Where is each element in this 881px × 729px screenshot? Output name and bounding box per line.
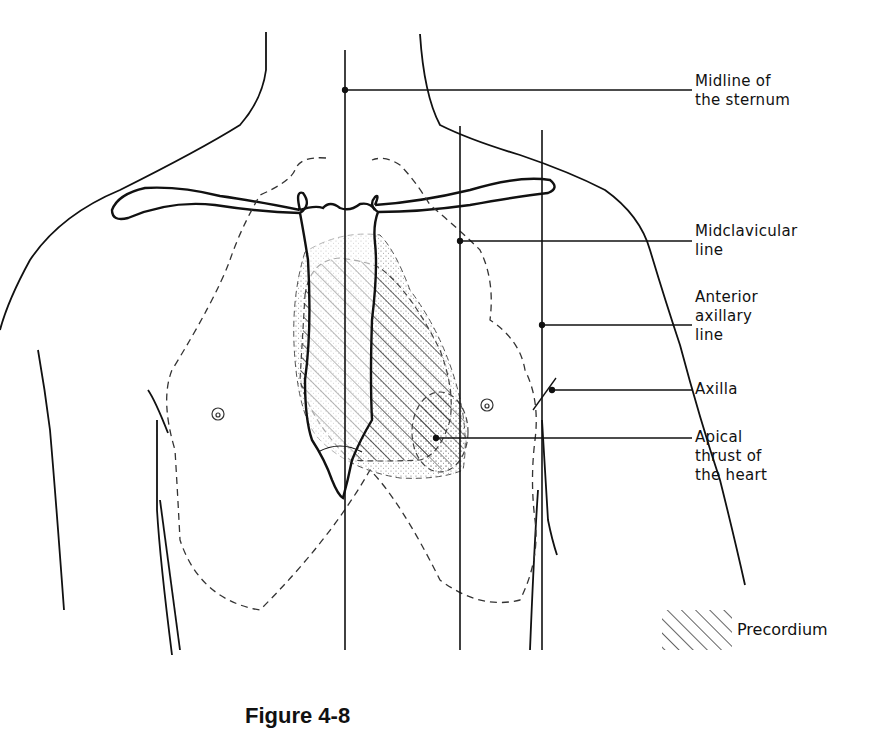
label-apical-thrust: Apical thrust of the heart — [695, 428, 767, 485]
label-line: Apical — [695, 428, 767, 447]
label-line: thrust of — [695, 447, 767, 466]
label-line: Anterior — [695, 288, 758, 307]
label-line: Midline of — [695, 72, 790, 91]
label-line: line — [695, 326, 758, 345]
label-line: the sternum — [695, 91, 790, 110]
label-line: Axilla — [695, 380, 738, 399]
label-line: Midclavicular — [695, 222, 797, 241]
label-line: axillary — [695, 307, 758, 326]
label-axilla: Axilla — [695, 380, 738, 399]
label-midline-of-sternum: Midline of the sternum — [695, 72, 790, 110]
label-midclavicular-line: Midclavicular line — [695, 222, 797, 260]
figure-caption: Figure 4-8 — [245, 703, 350, 729]
legend-label: Precordium — [737, 620, 828, 639]
label-line: the heart — [695, 466, 767, 485]
legend-swatch — [662, 610, 732, 650]
label-anterior-axillary-line: Anterior axillary line — [695, 288, 758, 345]
label-line: line — [695, 241, 797, 260]
